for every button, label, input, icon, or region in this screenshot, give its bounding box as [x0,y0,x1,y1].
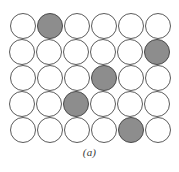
shaded-circle [144,39,170,65]
circle-grid [0,0,179,145]
circle [37,117,63,143]
circle [90,91,116,117]
circle [117,39,143,65]
circle [10,65,36,91]
circle [118,13,144,39]
circle [9,91,35,117]
shaded-circle [37,13,63,39]
circle [144,91,170,117]
circle [145,65,171,91]
circle [117,91,143,117]
figure-caption: (a) [0,146,179,158]
circle [36,39,62,65]
circle [64,13,90,39]
circle [91,117,117,143]
circle [90,39,116,65]
shaded-circle [63,91,89,117]
circle [118,65,144,91]
circle [36,91,62,117]
circle [64,117,90,143]
circle [37,65,63,91]
circle [145,13,171,39]
circle [91,13,117,39]
circle [63,39,89,65]
circle [64,65,90,91]
shaded-circle [91,65,117,91]
circle [145,117,171,143]
circle [10,13,36,39]
circle [10,117,36,143]
shaded-circle [118,117,144,143]
figure-panel: (a) [0,0,179,172]
circle [9,39,35,65]
